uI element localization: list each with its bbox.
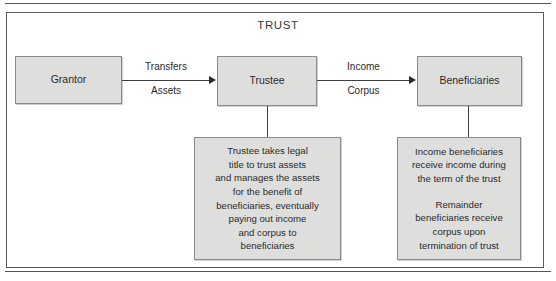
- edge-trustee-to-beneficiaries-line: [317, 80, 410, 81]
- edge-grantor-to-trustee-line: [122, 80, 210, 81]
- trust-frame-title: TRUST: [0, 19, 556, 31]
- trust-diagram-figure: TRUST Grantor Trustee Beneficiaries Tran…: [0, 0, 556, 281]
- detail-beneficiaries-paragraph-2: Remainder beneficiaries receive corpus u…: [415, 198, 502, 252]
- node-grantor-label: Grantor: [51, 73, 87, 86]
- edge-label-corpus: Corpus: [317, 85, 410, 96]
- connector-beneficiaries-to-detail: [468, 106, 469, 137]
- edge-grantor-to-trustee-arrowhead-icon: [209, 76, 216, 84]
- bottom-divider-rule: [5, 271, 551, 272]
- top-divider-rule: [5, 3, 551, 4]
- edge-trustee-to-beneficiaries-arrowhead-icon: [409, 76, 416, 84]
- node-trustee-label: Trustee: [249, 74, 284, 87]
- detail-box-beneficiaries: Income beneficiaries receive income duri…: [397, 137, 521, 260]
- node-trustee: Trustee: [217, 56, 317, 106]
- detail-trustee-paragraph-1: Trustee takes legal title to trust asset…: [215, 144, 320, 253]
- node-grantor: Grantor: [15, 56, 122, 104]
- node-beneficiaries-label: Beneficiaries: [439, 74, 499, 87]
- detail-beneficiaries-paragraph-1: Income beneficiaries receive income duri…: [412, 145, 506, 186]
- edge-label-transfers: Transfers: [122, 61, 210, 72]
- connector-trustee-to-detail: [267, 106, 268, 137]
- edge-label-income: Income: [317, 61, 410, 72]
- detail-box-trustee: Trustee takes legal title to trust asset…: [194, 137, 341, 260]
- node-beneficiaries: Beneficiaries: [417, 56, 522, 106]
- edge-label-assets: Assets: [122, 85, 210, 96]
